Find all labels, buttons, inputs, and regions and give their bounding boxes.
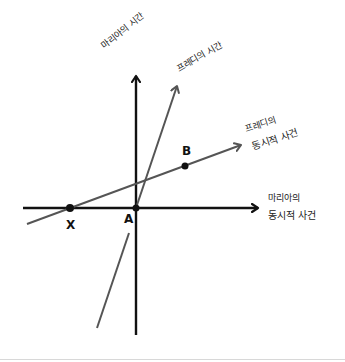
fredi-simultaneous-axis	[27, 145, 241, 224]
point-x	[66, 204, 74, 212]
point-x-label: X	[66, 218, 75, 232]
point-b	[182, 163, 189, 170]
fredi-time-axis-lower	[97, 233, 129, 328]
maria-simultaneous-label-1: 마리아의	[268, 193, 300, 204]
spacetime-diagram	[0, 0, 345, 362]
point-a-label: A	[124, 212, 133, 226]
bottom-divider	[0, 359, 345, 360]
point-a	[133, 205, 140, 212]
maria-simultaneous-label-2: 동시적 사건	[268, 210, 316, 222]
fredi-time-axis	[136, 86, 177, 208]
point-b-label: B	[182, 144, 191, 158]
